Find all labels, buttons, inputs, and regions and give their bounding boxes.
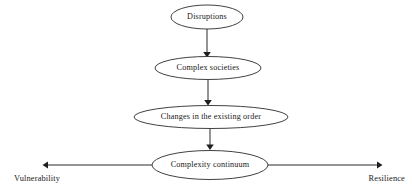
node-complex-societies: Complex societies — [155, 57, 261, 80]
arrow-head-right-icon — [377, 162, 383, 169]
node-disruptions: Disruptions — [171, 5, 243, 29]
connector-changes-to-continuum — [206, 129, 214, 150]
arrow-head-down-icon — [206, 145, 214, 151]
node-label-complex-societies: Complex societies — [177, 63, 240, 72]
arrow-head-down-icon — [204, 100, 212, 106]
axis-label-vulnerability: Vulnerability — [14, 174, 61, 183]
node-complexity-continuum: Complexity continuum — [152, 151, 268, 180]
axis-label-resilience: Resilience — [369, 174, 406, 183]
node-label-disruptions: Disruptions — [187, 12, 227, 21]
node-changes-existing-order: Changes in the existing order — [134, 106, 288, 129]
connector-complex-societies-to-changes — [204, 80, 212, 106]
flow-diagram-canvas: Disruptions Complex societies Changes in… — [0, 0, 412, 193]
node-label-complexity-continuum: Complexity continuum — [171, 160, 250, 169]
connector-disruptions-to-complex-societies — [203, 29, 211, 58]
flow-diagram-svg: Disruptions Complex societies Changes in… — [0, 0, 412, 193]
node-label-changes-existing-order: Changes in the existing order — [161, 112, 261, 121]
arrow-head-left-icon — [43, 162, 49, 169]
